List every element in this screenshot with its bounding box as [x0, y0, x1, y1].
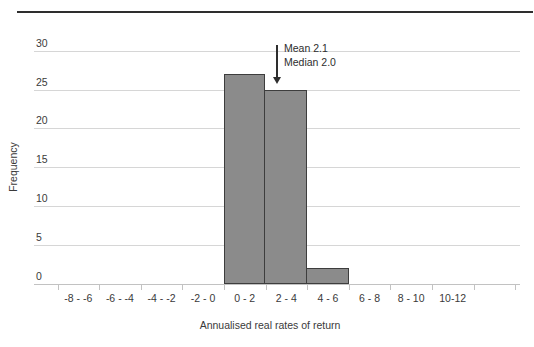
x-axis-line: [34, 284, 520, 285]
x-axis-tick: [432, 285, 433, 290]
histogram-figure: Frequency 051015202530-8 - -6-6 - -4-4 -…: [0, 0, 534, 347]
histogram-bar: [306, 268, 349, 284]
y-tick-label: 0: [36, 270, 42, 282]
histogram-bar: [264, 90, 307, 285]
mean-label: Mean 2.1: [284, 42, 336, 56]
y-tick-label: 15: [36, 153, 48, 165]
x-axis-tick: [390, 285, 391, 290]
x-axis-tick: [224, 285, 225, 290]
x-axis-tick: [474, 285, 475, 290]
median-label: Median 2.0: [284, 56, 336, 70]
plot-area: 051015202530-8 - -6-6 - -4-4 - -2-2 - 00…: [0, 0, 534, 347]
x-axis-tick: [349, 285, 350, 290]
x-tick-label: 10-12: [423, 292, 483, 304]
x-axis-tick: [182, 285, 183, 290]
x-axis-tick: [141, 285, 142, 290]
x-axis-tick: [307, 285, 308, 290]
x-axis-tick: [266, 285, 267, 290]
x-axis-tick: [515, 285, 516, 290]
histogram-bar: [224, 74, 266, 284]
y-tick-label: 10: [36, 192, 48, 204]
y-tick-label: 20: [36, 114, 48, 126]
x-axis-title: Annualised real rates of return: [150, 319, 390, 331]
mean-annotation-line: [276, 45, 278, 78]
x-axis-tick: [99, 285, 100, 290]
y-tick-label: 5: [36, 231, 42, 243]
arrow-down-icon: [273, 77, 281, 84]
x-axis-tick: [58, 285, 59, 290]
annotation-text: Mean 2.1 Median 2.0: [284, 42, 336, 69]
y-tick-label: 25: [36, 76, 48, 88]
y-tick-label: 30: [36, 37, 48, 49]
